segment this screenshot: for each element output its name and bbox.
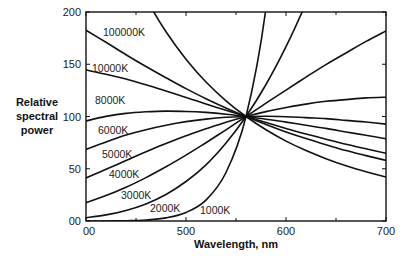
- curve-label-group: 100000K10000K8000K6000K5000K4000K3000K20…: [92, 26, 230, 216]
- x-tick-label: 600: [277, 225, 295, 237]
- y-tick-label: 200: [63, 6, 81, 18]
- curve-5000k: [86, 116, 386, 149]
- curve-label-8000k: 8000K: [95, 94, 125, 106]
- curve-label-10000k: 10000K: [92, 62, 128, 74]
- x-tick-label: 00: [83, 225, 95, 237]
- curve-label-3000k: 3000K: [121, 189, 151, 201]
- y-tick-label: 150: [63, 58, 81, 70]
- y-tick-label: 50: [69, 163, 81, 175]
- curve-label-5000k: 5000K: [102, 148, 132, 160]
- y-tick-label: 100: [63, 111, 81, 123]
- curve-label-100000k: 100000K: [103, 26, 145, 38]
- spectral-power-chart: 005006007000050100150200 100000K10000K80…: [0, 0, 409, 267]
- curve-10000k: [86, 30, 386, 160]
- curve-label-4000k: 4000K: [109, 168, 139, 180]
- curve-6000k: [86, 111, 386, 139]
- x-tick-label: 500: [177, 225, 195, 237]
- curve-label-2000k: 2000K: [150, 202, 180, 214]
- x-tick-label: 700: [377, 225, 395, 237]
- y-tick-label: 00: [69, 215, 81, 227]
- x-axis-title: Wavelength, nm: [194, 238, 278, 250]
- curve-label-1000k: 1000K: [200, 204, 230, 216]
- y-axis-title-line-1: Relative: [16, 96, 58, 108]
- y-axis-title-line-2: spectral: [16, 110, 58, 122]
- y-axis-title-line-3: power: [21, 124, 54, 136]
- curve-label-6000k: 6000K: [98, 124, 128, 136]
